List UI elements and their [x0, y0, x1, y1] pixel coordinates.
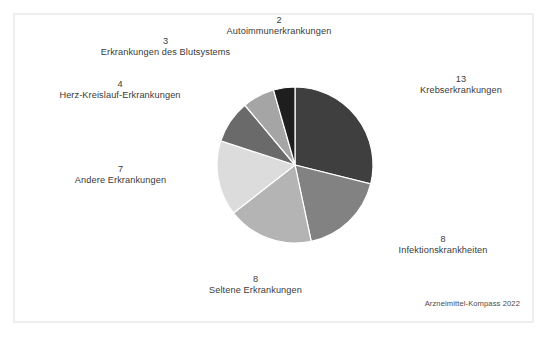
pie-chart: 13 Krebserkrankungen 8 Infektionskrankhe… [0, 0, 548, 340]
pie-label-name: Herz-Kreislauf-Erkrankungen [20, 90, 220, 102]
pie-label-name: Infektionskrankheiten [358, 245, 528, 257]
pie-label-value: 7 [28, 163, 213, 175]
pie-label-value: 8 [358, 233, 528, 245]
pie-label-name: Seltene Erkrankungen [168, 285, 343, 297]
pie-slice-group [217, 87, 373, 243]
pie-label-andere-erkrankungen: 7 Andere Erkrankungen [28, 163, 213, 187]
pie-label-autoimmunerkrankungen: 2 Autoimmunerkrankungen [164, 14, 394, 38]
pie-label-seltene-erkrankungen: 8 Seltene Erkrankungen [168, 273, 343, 297]
chart-page: 13 Krebserkrankungen 8 Infektionskrankhe… [0, 0, 548, 340]
pie-label-name: Erkrankungen des Blutsystems [58, 47, 273, 59]
pie-label-infektionskrankheiten: 8 Infektionskrankheiten [358, 233, 528, 257]
pie-label-name: Andere Erkrankungen [28, 175, 213, 187]
pie-label-erkrankungen-des-blutsystems: 3 Erkrankungen des Blutsystems [58, 35, 273, 59]
pie-label-krebserkrankungen: 13 Krebserkrankungen [382, 73, 540, 97]
pie-label-value: 4 [20, 78, 220, 90]
pie-label-herz-kreislauf-erkrankungen: 4 Herz-Kreislauf-Erkrankungen [20, 78, 220, 102]
pie-label-value: 2 [164, 14, 394, 26]
pie-label-name: Krebserkrankungen [382, 85, 540, 97]
pie-label-value: 8 [168, 273, 343, 285]
pie-label-value: 13 [382, 73, 540, 85]
pie-label-name: Autoimmunerkrankungen [164, 26, 394, 38]
source-note: Arzneimittel-Kompass 2022 [425, 299, 520, 308]
